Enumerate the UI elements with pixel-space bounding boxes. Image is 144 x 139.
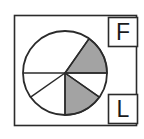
pie-diagram-svg: F L: [0, 0, 144, 139]
callout-label-top: F: [116, 19, 130, 45]
figure-canvas: F L: [0, 0, 144, 139]
callout-label-bottom: L: [117, 96, 130, 122]
